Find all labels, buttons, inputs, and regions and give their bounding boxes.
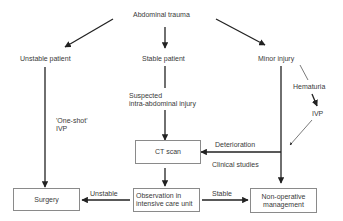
- label-one-shot-ivp: 'One-shot' IVP: [56, 117, 87, 133]
- label-suspected-line2: intra-abdominal injury: [129, 100, 196, 108]
- box-observation-line2: intensive care unit: [136, 200, 192, 208]
- label-suspected-line1: Suspected: [129, 92, 196, 100]
- label-one-shot-line2: IVP: [56, 125, 87, 133]
- box-surgery-label: Surgery: [34, 196, 59, 204]
- label-unstable-edge: Unstable: [90, 190, 118, 198]
- label-one-shot-line1: 'One-shot': [56, 117, 87, 125]
- label-stable-edge: Stable: [212, 190, 232, 198]
- box-nonop-line1: Non-operative: [262, 193, 306, 201]
- node-unstable-patient: Unstable patient: [20, 55, 71, 63]
- label-clinical-studies: Clinical studies: [212, 161, 259, 169]
- label-deterioration: Deterioration: [215, 141, 255, 149]
- label-suspected-injury: Suspected intra-abdominal injury: [129, 92, 196, 108]
- root-node-abdominal-trauma: Abdominal trauma: [133, 11, 190, 19]
- box-observation-line1: Observation in: [136, 192, 192, 200]
- box-non-operative-management: Non-operative management: [250, 188, 317, 213]
- box-ct-scan: CT scan: [135, 140, 201, 164]
- box-ct-scan-label: CT scan: [155, 148, 181, 156]
- node-stable-patient: Stable patient: [142, 55, 185, 63]
- box-surgery: Surgery: [13, 188, 80, 211]
- box-observation-icu: Observation in intensive care unit: [133, 188, 200, 212]
- label-hematuria: Hematuria: [293, 83, 325, 91]
- node-minor-injury: Minor injury: [258, 55, 294, 63]
- label-ivp: IVP: [312, 110, 323, 118]
- box-nonop-line2: management: [262, 201, 306, 209]
